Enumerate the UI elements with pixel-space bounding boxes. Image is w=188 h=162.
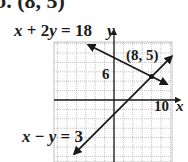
- x-tick-label: 10: [154, 98, 169, 115]
- intersection-point: [149, 74, 154, 79]
- system-of-equations-graph: b. (8, 5) x + 2y = 18 y (8, 5) 6 10 x x …: [0, 0, 188, 162]
- y-tick-label: 6: [102, 66, 110, 83]
- x-axis-label: x: [176, 98, 184, 115]
- intersection-label: (8, 5): [126, 47, 159, 64]
- y-axis-label: y: [107, 21, 115, 41]
- equation-label-2: x − y = 3: [22, 127, 83, 147]
- equation-label-1: x + 2y = 18: [14, 21, 92, 41]
